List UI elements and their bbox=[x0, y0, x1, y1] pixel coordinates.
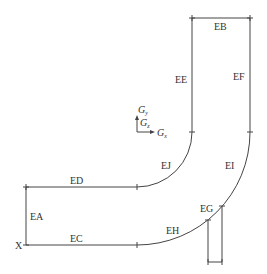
label-ea: EA bbox=[30, 211, 44, 222]
label-ej: EJ bbox=[161, 160, 171, 171]
label-ec: EC bbox=[70, 233, 83, 244]
diagram-canvas: EB EE EF EJ EI ED EA EC EH EG X Gy Gz Gx bbox=[0, 0, 267, 274]
label-eg: EG bbox=[200, 203, 213, 214]
label-eh: EH bbox=[166, 225, 179, 236]
x-arrowhead-icon bbox=[150, 130, 155, 134]
label-eb: EB bbox=[214, 21, 227, 32]
axis-label-z: Gz bbox=[140, 117, 150, 129]
axis-label-x: Gx bbox=[157, 127, 167, 139]
node-ticks bbox=[23, 15, 253, 265]
origin-label: X bbox=[15, 240, 23, 251]
label-ei: EI bbox=[225, 160, 234, 171]
y-arrowhead-icon bbox=[135, 115, 139, 120]
axis-label-y: Gy bbox=[138, 104, 148, 116]
label-ef: EF bbox=[233, 71, 245, 82]
label-ed: ED bbox=[70, 175, 83, 186]
label-ee: EE bbox=[175, 74, 187, 85]
segment-ei-eg-eh bbox=[137, 132, 250, 245]
axis-triad: Gy Gz Gx bbox=[135, 104, 167, 139]
